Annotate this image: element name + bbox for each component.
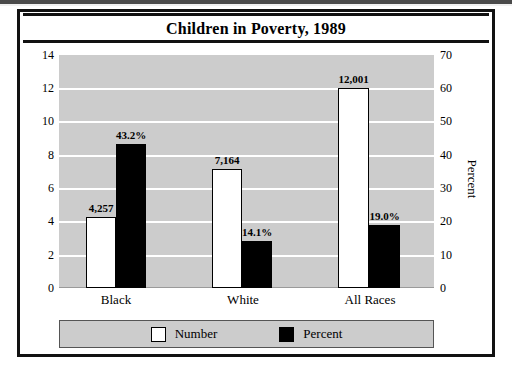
y-axis-tick-left-5: 10 [30,114,54,129]
bar-label-number-white: 7,164 [215,154,240,166]
y-axis-tick-right-2: 20 [440,214,466,229]
y-axis-tick-right-0: 0 [440,281,466,296]
y-axis-tick-left-3: 6 [30,181,54,196]
bars-layer: 4,257 43.2% 7,164 14.1% 12,001 19.0% [59,55,434,288]
y-axis-tick-left-6: 12 [30,81,54,96]
bar-group-black: 4,257 43.2% [86,55,146,288]
y-axis-tick-right-4: 40 [440,148,466,163]
bar-label-percent-all-races: 19.0% [369,210,399,222]
y-axis-tick-left-0: 0 [30,281,54,296]
bar-number-black[interactable]: 4,257 [86,217,116,288]
bar-percent-all-races[interactable]: 19.0% [369,225,400,288]
bar-label-percent-white: 14.1% [242,226,272,238]
legend: Number Percent [59,320,434,348]
x-axis-label-black: Black [56,292,176,308]
title-rule-top [23,13,489,16]
y-axis-tick-right-7: 70 [440,48,466,63]
plot-area: 4,257 43.2% 7,164 14.1% 12,001 19.0% [59,55,434,288]
legend-swatch-number-icon [151,327,166,342]
y-axis-title-right: Percent [464,79,480,279]
bar-percent-white[interactable]: 14.1% [242,241,272,288]
page-top-edge-highlight [0,4,512,6]
y-axis-tick-left-7: 14 [30,48,54,63]
bar-label-number-black: 4,257 [89,202,114,214]
title-rule-bottom [23,40,489,43]
legend-item-percent[interactable]: Percent [279,326,342,342]
bar-number-white[interactable]: 7,164 [212,169,242,288]
legend-label-percent: Percent [303,326,342,342]
x-axis-label-white: White [183,292,303,308]
bar-label-percent-black: 43.2% [116,129,146,141]
y-axis-tick-left-1: 2 [30,248,54,263]
bar-group-white: 7,164 14.1% [212,55,272,288]
x-axis-label-all-races: All Races [310,292,430,308]
legend-label-number: Number [175,326,218,342]
bar-number-all-races[interactable]: 12,001 [338,88,369,288]
bar-label-number-all-races: 12,001 [338,73,368,85]
legend-swatch-percent-icon [279,327,294,342]
y-axis-tick-left-4: 8 [30,148,54,163]
bar-group-all-races: 12,001 19.0% [338,55,400,288]
legend-item-number[interactable]: Number [151,326,218,342]
y-axis-tick-right-3: 30 [440,181,466,196]
y-axis-tick-right-6: 60 [440,81,466,96]
y-axis-tick-right-5: 50 [440,114,466,129]
bar-percent-black[interactable]: 43.2% [116,144,146,288]
chart-title: Children in Poverty, 1989 [23,18,489,40]
y-axis-tick-left-2: 4 [30,214,54,229]
y-axis-tick-right-1: 10 [440,248,466,263]
